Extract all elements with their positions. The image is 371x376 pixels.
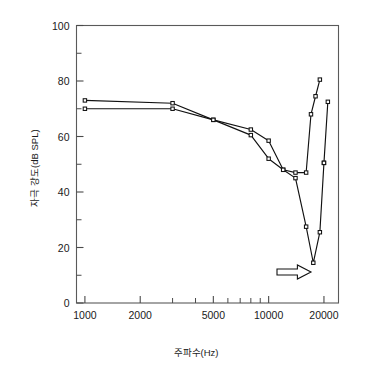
data-point-marker xyxy=(212,118,215,121)
y-tick-label-60: 60 xyxy=(58,131,70,143)
data-point-marker xyxy=(318,231,321,234)
data-point-marker xyxy=(171,107,174,110)
data-point-marker xyxy=(267,157,270,160)
chart-annotations xyxy=(277,265,311,279)
y-tick-label-100: 100 xyxy=(52,20,70,32)
data-point-marker xyxy=(83,107,86,110)
y-tick-label-80: 80 xyxy=(58,75,70,87)
notch-arrow-icon xyxy=(277,265,311,279)
data-point-marker xyxy=(171,102,174,105)
plot-frame xyxy=(77,26,339,304)
data-point-marker xyxy=(309,113,312,116)
x-axis-tick-labels: 1000200050001000020000 xyxy=(73,309,338,321)
x-tick-label-10000: 10000 xyxy=(254,309,283,321)
y-tick-label-20: 20 xyxy=(58,242,70,254)
data-point-marker xyxy=(249,128,252,131)
x-tick-label-5000: 5000 xyxy=(202,309,226,321)
x-tick-label-1000: 1000 xyxy=(73,309,97,321)
data-point-marker xyxy=(312,261,315,264)
x-tick-label-2000: 2000 xyxy=(129,309,153,321)
y-tick-label-0: 0 xyxy=(64,297,70,309)
y-axis-ticks xyxy=(77,26,84,304)
data-point-marker xyxy=(304,225,307,228)
y-tick-label-40: 40 xyxy=(58,186,70,198)
x-axis-title: 주파수(Hz) xyxy=(174,347,219,358)
x-tick-label-20000: 20000 xyxy=(309,309,338,321)
series-line-series-lower-tail xyxy=(324,102,328,163)
data-series-group xyxy=(83,78,329,265)
data-point-marker xyxy=(249,133,252,136)
series-line-series-lower xyxy=(85,109,324,263)
data-point-marker xyxy=(294,176,297,179)
data-point-marker xyxy=(314,95,317,98)
y-axis-title: 자극 강도(dB SPL) xyxy=(29,129,40,206)
series-line-series-upper xyxy=(85,80,320,173)
data-point-marker xyxy=(281,168,284,171)
data-point-marker xyxy=(322,161,325,164)
data-point-marker xyxy=(326,100,329,103)
data-point-marker xyxy=(267,139,270,142)
data-point-marker xyxy=(83,99,86,102)
data-point-marker xyxy=(318,78,321,81)
data-point-marker xyxy=(304,171,307,174)
chart-canvas: 1000200050001000020000 020406080100 주파수(… xyxy=(0,0,371,376)
chart-figure: 1000200050001000020000 020406080100 주파수(… xyxy=(0,0,371,376)
y-axis-tick-labels: 020406080100 xyxy=(52,20,70,310)
x-axis-ticks xyxy=(85,296,324,303)
data-point-marker xyxy=(294,171,297,174)
